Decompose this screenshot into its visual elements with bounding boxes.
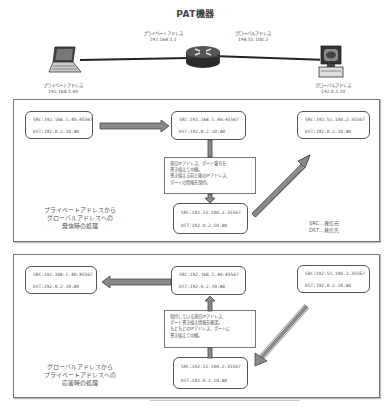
packet-src: SRC:192.168.1.40:45567: [179, 117, 239, 122]
arrow-down-icon: [203, 194, 217, 204]
arrow-up-icon: [203, 348, 217, 358]
note-inbound: 保持している発信IPアドレス、 ポート書き換え情報を確認。 もともとのIPアドレ…: [164, 310, 256, 348]
arrow-down-icon: [203, 140, 217, 157]
packet-dst: DST:192.0.2.10:80: [305, 129, 351, 134]
caption-inbound: グローバルアドレスから プライベートアドレスへの 応答時の処理: [30, 363, 130, 387]
legend-src-dst: SRC…発信元 DST…発信先: [309, 220, 339, 234]
arrow-diagonal-down-icon: [253, 303, 311, 369]
packet-src: SRC:192.168.1.40:45567: [179, 272, 239, 277]
packet-dst: DST:192.0.2.10:80: [179, 129, 225, 134]
client-label: プライベートアドレス 192.168.1.40: [28, 83, 98, 95]
router-global-label: グローバルアドレス 198.51.100.2: [218, 31, 288, 43]
packet-src: SRC:192.168.1.40:45567: [33, 117, 93, 122]
packet-box-server-inbound: SRC:192.51.100.2:35567 DST:192.0.2.10:80: [297, 265, 370, 293]
packet-dst: DST:192.0.2.10:80: [181, 223, 227, 228]
packet-dst: DST:192.0.2.10:80: [305, 283, 351, 288]
packet-src: SRC:192.51.100.2:35567: [305, 117, 365, 122]
packet-box-router-out-inbound: SRC:192.168.1.40:45567 DST:192.0.2.10:80: [171, 266, 246, 295]
arrow-right-icon: [99, 119, 171, 133]
arrow-left-icon: [100, 275, 172, 289]
router-icon: [185, 44, 221, 70]
packet-dst: DST:192.0.2.10:80: [33, 129, 79, 134]
laptop-icon: [47, 46, 83, 74]
link-router-server: [220, 55, 320, 60]
packet-box-router-out-outbound: SRC:192.51.100.2:35567 DST:192.0.2.10:80: [173, 203, 248, 234]
caption-outbound: プライベートアドレスから グローバルアドレスへの 発信時の処理: [30, 206, 130, 230]
packet-box-router-in-inbound: SRC:192.51.100.2:35567 DST:192.0.2.10:80: [173, 357, 248, 389]
packet-dst: DST:192.0.2.10:80: [179, 284, 225, 289]
packet-src: SRC:192.51.100.2:35567: [181, 364, 241, 369]
packet-box-server-outbound: SRC:192.51.100.2:35567 DST:192.0.2.10:80: [297, 111, 370, 139]
packet-dst: DST:192.0.2.10:80: [33, 284, 79, 289]
diagram-title: PAT機器: [0, 7, 391, 20]
packet-box-client-outbound: SRC:192.168.1.40:45567 DST:192.0.2.10:80: [25, 111, 93, 139]
packet-src: SRC:192.51.100.2:35567: [181, 210, 241, 215]
packet-src: SRC:192.51.100.2:35567: [305, 271, 365, 276]
arrow-up-icon: [203, 295, 217, 311]
link-client-router: [80, 57, 190, 61]
router-private-label: プライベートアドレス 192.168.1.1: [128, 31, 198, 43]
arrow-diagonal-up-icon: [250, 152, 312, 218]
server-icon: [318, 45, 344, 79]
packet-src: SRC:192.168.1.40:45567: [33, 272, 93, 277]
server-label: グローバルアドレス 192.0.2.10: [298, 83, 368, 95]
packet-box-router-in-outbound: SRC:192.168.1.40:45567 DST:192.0.2.10:80: [171, 111, 246, 140]
note-outbound: 発信IPアドレス、ポート番号を 書き換えて中継。 書き換える前と後のIPアドレス…: [164, 157, 256, 194]
packet-dst: DST:192.0.2.10:80: [181, 378, 227, 383]
packet-box-client-inbound: SRC:192.168.1.40:45567 DST:192.0.2.10:80: [25, 266, 97, 294]
footer-divider: [150, 400, 300, 401]
